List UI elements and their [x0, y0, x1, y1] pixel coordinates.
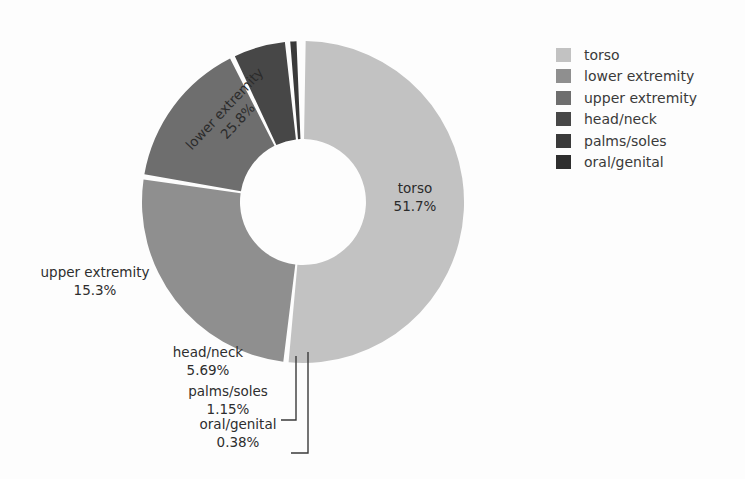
donut-chart-svg: torso 51.7% lower extremity 25.8% upper …	[0, 0, 540, 479]
legend-swatch-icon	[556, 48, 571, 62]
slice-label-oral-genital-name: oral/genital	[200, 416, 277, 432]
legend-swatch-icon	[556, 91, 571, 105]
legend-item[interactable]: upper extremity	[556, 87, 741, 109]
legend-item-label: torso	[584, 48, 620, 62]
legend-item[interactable]: head/neck	[556, 109, 741, 131]
legend-swatch-icon	[556, 155, 571, 169]
legend-item-label: head/neck	[584, 112, 657, 126]
donut-chart-area: torso 51.7% lower extremity 25.8% upper …	[0, 0, 540, 479]
slice-label-upper-extremity-value: 15.3%	[74, 282, 117, 298]
legend-item-label: upper extremity	[584, 91, 697, 105]
legend-swatch-icon	[556, 112, 571, 126]
legend-swatch-icon	[556, 69, 571, 83]
chart-page: torso 51.7% lower extremity 25.8% upper …	[0, 0, 745, 479]
leader-line-palms-soles	[281, 356, 296, 420]
slice-label-torso-name: torso	[398, 180, 432, 196]
slice-label-head-neck-value: 5.69%	[187, 362, 230, 378]
legend-item[interactable]: oral/genital	[556, 152, 741, 174]
slice-label-palms-soles-value: 1.15%	[207, 401, 250, 417]
slice-label-palms-soles-name: palms/soles	[188, 383, 268, 399]
slice-label-oral-genital-value: 0.38%	[217, 434, 260, 450]
legend-item[interactable]: lower extremity	[556, 66, 741, 88]
donut-slice-torso[interactable]	[289, 41, 464, 363]
slice-label-torso-value: 51.7%	[394, 198, 437, 214]
slice-label-upper-extremity-name: upper extremity	[41, 264, 150, 280]
donut-slice-lower-extremity[interactable]	[142, 180, 295, 362]
legend-item-label: lower extremity	[584, 69, 694, 83]
legend-item[interactable]: palms/soles	[556, 130, 741, 152]
legend-item-label: oral/genital	[584, 155, 664, 169]
legend-item-label: palms/soles	[584, 134, 667, 148]
legend-swatch-icon	[556, 134, 571, 148]
slice-label-head-neck-name: head/neck	[173, 344, 244, 360]
chart-legend: torso lower extremity upper extremity he…	[556, 44, 741, 173]
leader-line-oral-genital	[291, 352, 308, 453]
legend-item[interactable]: torso	[556, 44, 741, 66]
